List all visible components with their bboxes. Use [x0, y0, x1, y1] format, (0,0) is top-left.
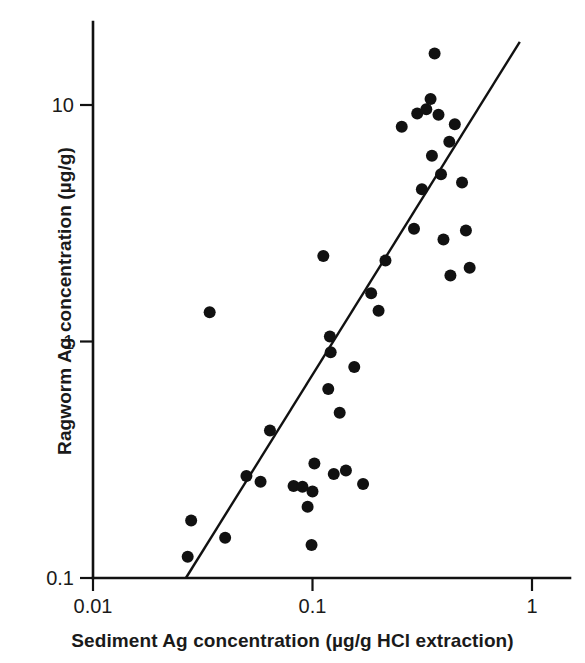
data-points-group — [182, 48, 476, 563]
data-point — [429, 48, 441, 60]
data-point — [182, 551, 194, 563]
data-point — [255, 476, 267, 488]
x-tick-label: 0.01 — [74, 596, 113, 616]
x-tick-label: 1 — [526, 596, 537, 616]
x-axis-title: Sediment Ag concentration (µg/g HCl extr… — [0, 630, 585, 652]
data-point — [240, 470, 252, 482]
data-point — [373, 305, 385, 317]
data-point — [396, 121, 408, 133]
data-point — [308, 457, 320, 469]
regression-line — [186, 42, 520, 578]
data-point — [435, 168, 447, 180]
data-point — [416, 183, 428, 195]
data-point — [426, 150, 438, 162]
data-point — [379, 255, 391, 267]
data-point — [340, 464, 352, 476]
data-point — [302, 501, 314, 513]
data-point — [307, 486, 319, 498]
data-point — [365, 287, 377, 299]
data-point — [185, 515, 197, 527]
data-point — [325, 346, 337, 358]
data-point — [432, 109, 444, 121]
axes-group — [93, 22, 570, 578]
data-point — [456, 177, 468, 189]
data-point — [204, 306, 216, 318]
data-point — [348, 361, 360, 373]
y-axis-title: Ragworm Ag concentration (µg/g) — [54, 21, 76, 581]
data-point — [443, 136, 455, 148]
x-tick-label: 0.1 — [299, 596, 327, 616]
data-point — [324, 330, 336, 342]
data-point — [219, 532, 231, 544]
data-point — [306, 539, 318, 551]
data-point — [408, 223, 420, 235]
plot-canvas — [0, 0, 585, 663]
data-point — [357, 478, 369, 490]
data-point — [425, 93, 437, 105]
data-point — [322, 383, 334, 395]
data-point — [334, 407, 346, 419]
data-point — [317, 250, 329, 262]
data-point — [464, 262, 476, 274]
data-point — [264, 425, 276, 437]
data-point — [444, 270, 456, 282]
data-point — [437, 233, 449, 245]
regression-line-segment — [186, 42, 520, 578]
data-point — [328, 468, 340, 480]
data-point — [460, 224, 472, 236]
scatter-plot-figure: 0.11100.010.11 Sediment Ag concentration… — [0, 0, 585, 663]
data-point — [449, 118, 461, 130]
